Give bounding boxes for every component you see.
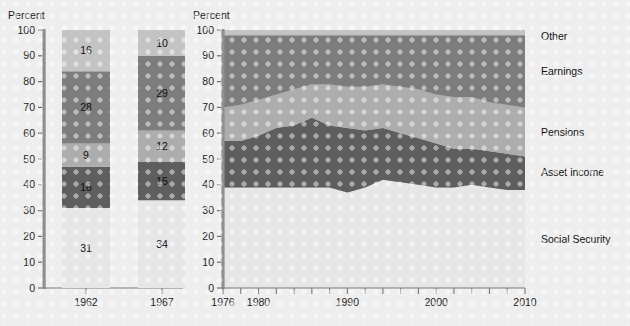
bar-segment-value-label: 34	[156, 238, 168, 250]
bar-chart-y-axis-line	[43, 29, 46, 289]
area-chart-y-tick-label: 100	[196, 24, 214, 36]
bar-chart-y-tick-label: 90	[23, 49, 35, 61]
area-chart-x-tick-label: 1990	[336, 296, 360, 308]
bar-segment-value-label: 31	[80, 242, 92, 254]
area-chart-y-tick-label: 60	[202, 127, 214, 139]
area-chart-x-tick-label: 2000	[424, 296, 448, 308]
area-chart-legend-label: Asset income	[541, 166, 604, 178]
area-chart-y-tick-label: 10	[202, 256, 214, 268]
bar-chart-y-tick-label: 80	[23, 75, 35, 87]
area-chart-y-tick-label: 70	[202, 101, 214, 113]
bar-chart-y-tick-label: 0	[29, 282, 35, 294]
bar-chart-y-axis-title: Percent	[8, 9, 45, 21]
bar-chart-y-tick-label: 30	[23, 204, 35, 216]
area-chart-y-tick-label: 40	[202, 178, 214, 190]
bar-chart-x-tick-label: 1967	[150, 296, 174, 308]
area-chart-y-tick-label: 20	[202, 230, 214, 242]
bar-chart-y-tick-label: 20	[23, 230, 35, 242]
area-chart-x-tick-label: 1976	[211, 296, 235, 308]
bar-segment-value-label: 12	[156, 140, 168, 152]
area-chart-y-tick-label: 80	[202, 75, 214, 87]
area-chart-x-tick-label: 1980	[247, 296, 271, 308]
bar-chart-y-tick-label: 10	[23, 256, 35, 268]
area-chart-legend-label: Earnings	[541, 65, 582, 77]
bar-chart-y-tick-label: 40	[23, 178, 35, 190]
bar-segment-value-label: 10	[156, 37, 168, 49]
bar-chart-y-tick-label: 70	[23, 101, 35, 113]
area-chart-legend-label: Other	[541, 30, 568, 42]
bar-segment-value-label: 16	[80, 44, 92, 56]
area-chart-y-axis-line	[221, 29, 224, 289]
bar-segment-value-label: 16	[80, 181, 92, 193]
bar-segment-value-label: 9	[83, 149, 89, 161]
bar-segment-value-label: 28	[80, 101, 92, 113]
bar-segment-value-label: 15	[156, 175, 168, 187]
bar-chart-canvas: 1009080706050403020100311692816196234151…	[0, 0, 185, 326]
area-chart-panel: Percent 10090807060504030201001976198019…	[185, 0, 630, 326]
area-chart-x-tick-label: 2010	[513, 296, 537, 308]
area-chart-y-tick-label: 90	[202, 49, 214, 61]
area-chart-legend-label: Social Security	[541, 233, 611, 245]
bar-chart-y-tick-label: 50	[23, 153, 35, 165]
area-chart-canvas: 1009080706050403020100197619801990200020…	[185, 0, 630, 326]
bar-chart-y-tick-label: 100	[17, 24, 35, 36]
bar-chart-panel: Percent 10090807060504030201003116928161…	[0, 0, 185, 326]
area-chart-y-axis-title: Percent	[193, 9, 230, 21]
bar-chart-x-tick-label: 1962	[74, 296, 98, 308]
area-band	[223, 180, 525, 288]
area-chart-y-tick-label: 50	[202, 153, 214, 165]
area-chart-y-tick-label: 0	[208, 282, 214, 294]
bar-segment-value-label: 29	[156, 87, 168, 99]
area-chart-y-tick-label: 30	[202, 204, 214, 216]
area-band	[223, 30, 525, 35]
bar-chart-y-tick-label: 60	[23, 127, 35, 139]
area-chart-legend-label: Pensions	[541, 126, 584, 138]
